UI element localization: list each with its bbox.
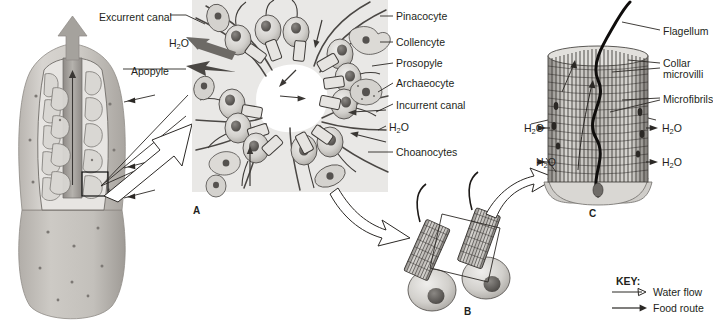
h2o-sub: 2 — [397, 126, 401, 135]
key-item-water-flow: Water flow — [653, 286, 702, 298]
whole-sponge-illustration — [19, 16, 126, 319]
h2o-h: H — [536, 156, 544, 168]
label-archaeocyte: Archaeocyte — [396, 77, 454, 89]
label-microvilli: microvilli — [663, 68, 703, 80]
h2o-sub: 2 — [532, 127, 536, 136]
h2o-h: H — [389, 121, 397, 133]
key-title: KEY: — [616, 275, 640, 287]
panel-a-micrograph — [186, 0, 390, 197]
label-incurrent-canal: Incurrent canal — [396, 99, 465, 111]
label-h2o-incurrent: H2O — [389, 121, 409, 135]
h2o-o: O — [548, 156, 556, 168]
label-pinacocyte: Pinacocyte — [396, 10, 447, 22]
magnify-callout-arrow-c — [486, 168, 556, 218]
h2o-o: O — [674, 122, 682, 134]
label-h2o-c-right-lower: H2O — [662, 156, 682, 170]
panel-letter-a: A — [193, 205, 200, 216]
label-h2o-c-left-upper: H2O — [524, 122, 544, 136]
label-h2o-c-right-upper: H2O — [662, 122, 682, 136]
label-flagellum: Flagellum — [663, 25, 709, 37]
key-item-food-route: Food route — [653, 302, 704, 314]
h2o-sub: 2 — [670, 161, 674, 170]
label-choanocytes: Choanocytes — [396, 146, 457, 158]
label-microfibrils: Microfibrils — [663, 93, 713, 105]
h2o-sub: 2 — [177, 42, 181, 51]
panel-b-choanocyte-pair — [404, 172, 510, 311]
h2o-h: H — [524, 122, 532, 134]
label-apopyle: Apopyle — [131, 65, 169, 77]
h2o-h: H — [169, 37, 177, 49]
h2o-h: H — [662, 156, 670, 168]
panel-letter-c: C — [589, 208, 596, 219]
key-legend-arrows — [612, 288, 647, 311]
h2o-o: O — [536, 122, 544, 134]
label-prosopyle: Prosopyle — [396, 57, 443, 69]
h2o-sub: 2 — [670, 127, 674, 136]
h2o-sub: 2 — [544, 161, 548, 170]
panel-c-collar-detail — [538, 2, 658, 205]
h2o-o: O — [181, 37, 189, 49]
label-h2o-excurrent: H2O — [169, 37, 189, 51]
magnify-callout-arrow-b — [330, 188, 410, 246]
h2o-o: O — [674, 156, 682, 168]
h2o-h: H — [662, 122, 670, 134]
h2o-o: O — [401, 121, 409, 133]
panel-letter-b: B — [464, 306, 471, 317]
label-h2o-c-left-lower: H2O — [536, 156, 556, 170]
label-excurrent-canal: Excurrent canal — [99, 11, 172, 23]
label-collencyte: Collencyte — [396, 36, 445, 48]
